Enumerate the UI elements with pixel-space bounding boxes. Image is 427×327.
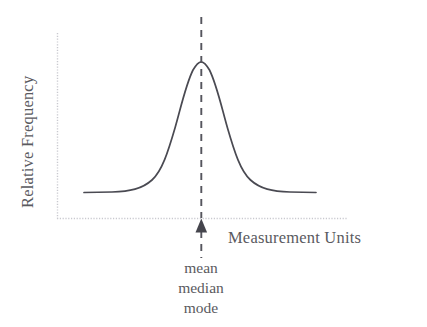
- annotation-median: median: [141, 278, 261, 298]
- annotation-mode: mode: [141, 298, 261, 318]
- y-axis-title: Relative Frequency: [18, 18, 44, 208]
- up-arrow-icon: [196, 219, 208, 233]
- figure-canvas: Relative Frequency Measurement Units mea…: [0, 0, 427, 327]
- center-annotation-group: mean median mode: [141, 258, 261, 318]
- x-axis-title: Measurement Units: [228, 228, 361, 248]
- normal-curve: [84, 62, 316, 193]
- annotation-mean: mean: [141, 258, 261, 278]
